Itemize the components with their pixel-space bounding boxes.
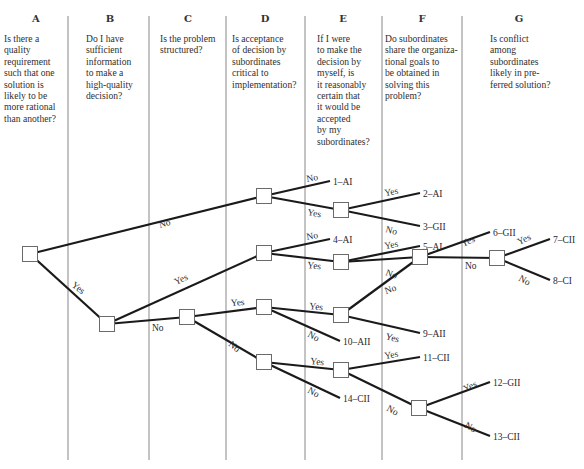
column-question-b: Do I have sufficient information to make…: [86, 33, 158, 101]
edge-a-b: [30, 254, 107, 324]
tree-edges: [30, 181, 550, 436]
outcome-edge: [264, 362, 340, 398]
column-question-f: Do subordinates share the organiza- tion…: [385, 33, 471, 101]
decision-node-d3: [257, 300, 272, 315]
decision-node-d4: [257, 355, 272, 370]
decision-node-g: [490, 251, 505, 266]
edge-d4-e4: [264, 362, 341, 370]
edge-label-yes: Yes: [173, 272, 190, 287]
column-letter-d: D: [255, 13, 275, 24]
edge-label-yes: Yes: [310, 356, 325, 367]
outcome-label: 9–AII: [423, 329, 446, 339]
edge-c-d4: [187, 317, 264, 362]
edge-label-yes: Yes: [516, 232, 533, 247]
edge-label-yes: Yes: [307, 207, 323, 219]
decision-node-c: [180, 310, 195, 325]
column-question-e: If I were to make the decision by myself…: [317, 33, 391, 147]
outcome-edge: [264, 307, 340, 341]
edge-label-yes: Yes: [307, 260, 322, 271]
decision-node-d1: [257, 189, 272, 204]
edge-f1-g: [420, 257, 497, 258]
decision-node-b: [100, 317, 115, 332]
outcome-edge: [419, 382, 490, 408]
decision-node-e1: [334, 203, 349, 218]
outcome-edge: [341, 210, 420, 226]
outcome-edge: [264, 239, 330, 253]
column-letter-b: B: [100, 13, 120, 24]
decision-node-a: [23, 247, 38, 262]
edge-label-no: No: [465, 261, 477, 271]
column-letter-c: C: [178, 13, 198, 24]
outcome-label: 12–GII: [493, 378, 520, 388]
edge-d2-e2: [264, 253, 341, 262]
column-letter-g: G: [509, 13, 529, 24]
outcome-label: 13–CII: [493, 432, 520, 442]
outcome-label: 11–CII: [423, 353, 450, 363]
outcome-label: 4–AI: [333, 235, 353, 245]
edge-label-no: No: [517, 273, 532, 288]
edge-label-yes: Yes: [230, 297, 245, 308]
decision-node-f2: [412, 401, 427, 416]
edge-label-yes: Yes: [384, 331, 400, 344]
outcome-label: 6–GII: [493, 228, 516, 238]
edge-labels: NoYesYesNoYesNoYesYesYesYesNoNoNoNoNoNoN…: [70, 172, 533, 435]
edge-label-yes: Yes: [384, 239, 400, 251]
edge-label-no: No: [306, 230, 319, 242]
edge-d1-e1: [264, 196, 341, 210]
edge-label-yes: Yes: [384, 349, 400, 361]
edge-label-no: No: [384, 224, 398, 237]
edge-label-no: No: [463, 420, 478, 435]
decision-node-e2: [334, 255, 349, 270]
outcome-edge: [341, 357, 420, 370]
outcome-label: 2–AI: [423, 189, 443, 199]
column-letter-e: E: [333, 13, 353, 24]
outcome-label: 14–CII: [343, 394, 370, 404]
edge-e3-f1: [341, 257, 420, 315]
outcome-edge: [264, 181, 330, 196]
decision-node-e3: [334, 308, 349, 323]
edge-label-yes: Yes: [462, 379, 479, 394]
outcome-label: 8–CI: [553, 276, 572, 286]
edge-label-yes: Yes: [384, 186, 400, 198]
edge-label-yes: Yes: [309, 301, 324, 312]
edge-c-d3: [187, 307, 264, 317]
edge-label-no: No: [383, 282, 398, 295]
column-question-a: Is there a quality requirement such that…: [4, 33, 78, 124]
decision-node-f1: [413, 250, 428, 265]
outcome-edge: [341, 315, 420, 333]
outcome-edge: [341, 193, 420, 210]
outcome-label: 7–CII: [553, 235, 575, 245]
column-letter-a: A: [26, 13, 46, 24]
outcome-label: 3–GII: [423, 222, 446, 232]
column-letter-f: F: [412, 13, 432, 24]
column-question-d: Is acceptance of decision by subordinate…: [232, 33, 314, 90]
decision-node-d2: [257, 246, 272, 261]
decision-node-e4: [334, 363, 349, 378]
outcome-edge: [419, 408, 490, 436]
column-question-c: Is the problem structured?: [160, 33, 236, 56]
edge-a-d1: [30, 196, 264, 254]
decision-tree-diagram: NoYesYesNoYesNoYesYesYesYesNoNoNoNoNoNoN…: [0, 0, 584, 469]
edge-label-no: No: [384, 267, 399, 280]
outcome-label: 1–AI: [333, 177, 353, 187]
edge-label-no: No: [152, 323, 164, 333]
column-question-g: Is conflict among subordinates likely in…: [490, 33, 584, 90]
outcome-label: 10–AII: [343, 337, 370, 347]
edge-label-no: No: [306, 172, 319, 184]
edge-label-no: No: [385, 403, 400, 418]
